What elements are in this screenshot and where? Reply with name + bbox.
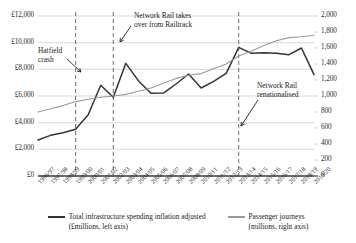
y-axis-right-tick: 1,200 (321, 75, 337, 83)
legend-swatch-passenger-journeys (228, 216, 245, 218)
annotation-line: crash (38, 55, 54, 64)
y-axis-left-tick: £4,000 (0, 118, 34, 126)
y-axis-left-tick: £2,000 (0, 144, 34, 152)
y-axis-left-tick: £0 (0, 171, 34, 179)
chart-plot-area (0, 0, 356, 243)
y-axis-right-tick: 2,000 (321, 11, 337, 19)
legend-label-journeys-line2: (millions, right axis) (249, 222, 309, 231)
annotation-hatfield-crash: Hatfieldcrash (38, 46, 62, 64)
y-axis-left-tick: £12,000 (0, 11, 34, 19)
y-axis-right-tick: 1,600 (321, 43, 337, 51)
y-axis-right-tick: 200 (321, 155, 331, 163)
annotation-network-rail-takeover: Network Rail takesover from Railtrack (134, 11, 192, 29)
chart-legend: Total infrastructure spending inflation … (0, 212, 356, 243)
legend-swatch-spending (48, 216, 65, 218)
legend-item-spending: Total infrastructure spending inflation … (48, 212, 206, 243)
y-axis-right-tick: 1,800 (321, 27, 337, 35)
legend-label-passenger-journeys: Passenger journeys (millions, right axis… (249, 212, 309, 231)
y-axis-left-tick: £8,000 (0, 64, 34, 72)
y-axis-left-tick: £6,000 (0, 91, 34, 99)
y-axis-right-tick: 600 (321, 123, 331, 131)
annotation-line: renationalised (257, 90, 298, 99)
annotation-line: over from Railtrack (134, 20, 192, 29)
y-axis-right-tick: 400 (321, 139, 331, 147)
annotation-arrows (67, 26, 258, 126)
legend-label-spending-line2: (£millions, left axis) (69, 222, 128, 231)
annotation-network-rail-renationalised: Network Railrenationalised (257, 81, 298, 99)
annotation-line: Network Rail (257, 81, 297, 90)
y-axis-right-tick: 1,400 (321, 59, 337, 67)
legend-label-spending-line1: Total infrastructure spending inflation … (69, 212, 206, 221)
annotation-line: Hatfield (38, 46, 62, 55)
y-axis-left-tick: £10,000 (0, 38, 34, 46)
legend-label-spending: Total infrastructure spending inflation … (69, 212, 206, 231)
chart-container: £0£2,000£4,000£6,000£8,000£10,000£12,000… (0, 0, 356, 243)
legend-label-journeys-line1: Passenger journeys (249, 212, 305, 221)
y-axis-right-tick: 1,000 (321, 91, 337, 99)
y-axis-right-tick: 800 (321, 107, 331, 115)
legend-item-passenger-journeys: Passenger journeys (millions, right axis… (228, 212, 309, 243)
annotation-line: Network Rail takes (134, 11, 191, 20)
